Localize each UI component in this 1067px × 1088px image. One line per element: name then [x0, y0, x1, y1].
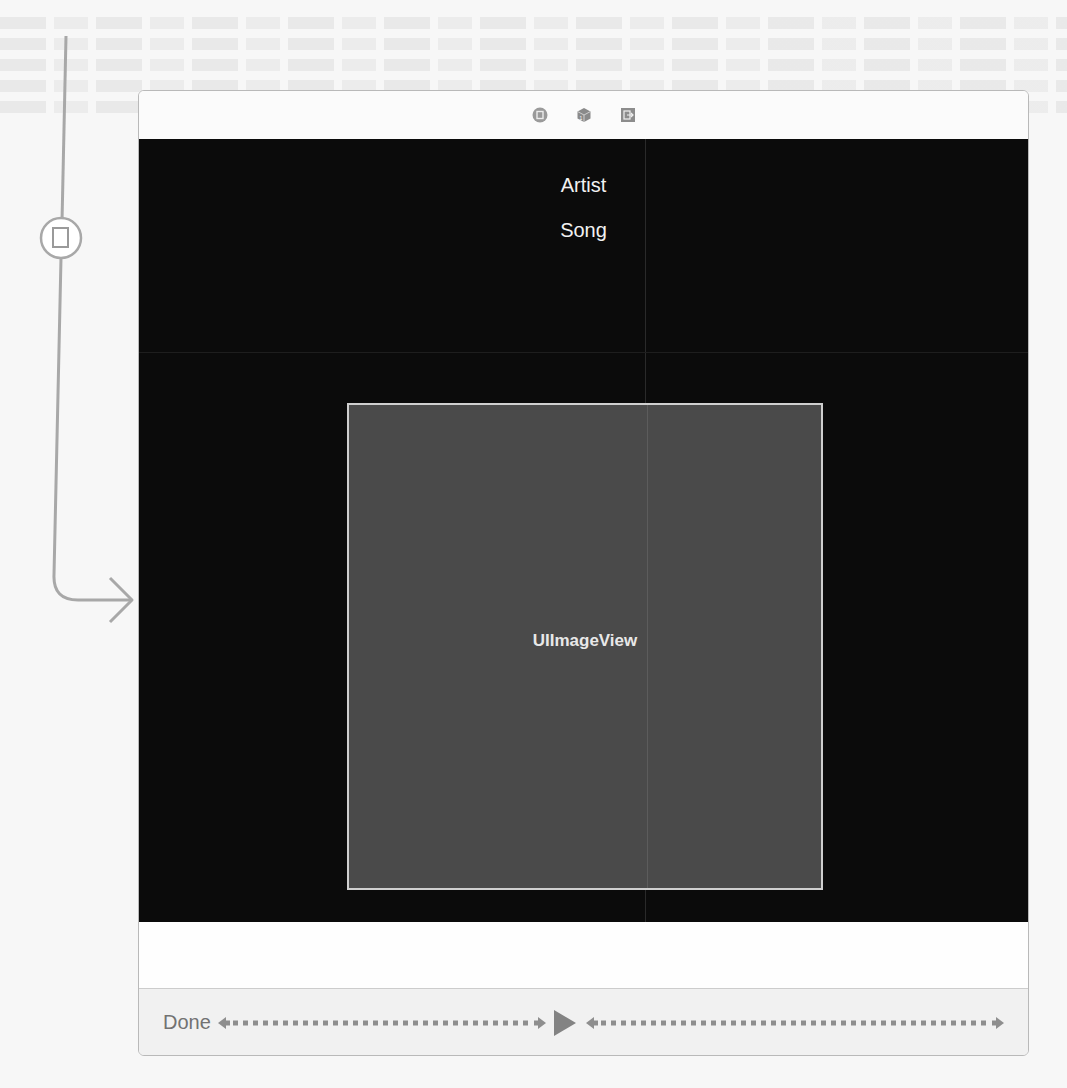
flexible-space-arrows-icon — [585, 1016, 1005, 1030]
flexible-space-left[interactable] — [217, 1016, 547, 1030]
flexible-space-right[interactable] — [585, 1016, 1005, 1030]
scene-dock: 1 — [139, 91, 1028, 140]
view-controller-icon[interactable] — [532, 107, 548, 123]
album-image-view[interactable]: UIImageView — [347, 403, 823, 890]
play-button[interactable] — [553, 1009, 577, 1037]
song-label[interactable]: Song — [139, 219, 1028, 242]
flexible-space-arrows-icon — [217, 1016, 547, 1030]
background-text-line: ████████████████████████████████████████… — [0, 38, 1067, 50]
empty-area — [139, 922, 1028, 988]
svg-text:1: 1 — [579, 115, 582, 121]
background-text-line: ████████████████████████████████████████… — [0, 59, 1067, 71]
done-button[interactable]: Done — [163, 1011, 211, 1034]
toolbar: Done — [139, 988, 1028, 1056]
segue-modal-icon[interactable] — [41, 218, 81, 258]
play-icon — [553, 1009, 577, 1037]
first-responder-icon[interactable]: 1 — [576, 107, 592, 123]
artist-label[interactable]: Artist — [139, 174, 1028, 197]
exit-icon[interactable] — [620, 107, 636, 123]
background-text-line: ████████████████████████████████████████… — [0, 17, 1067, 29]
image-view-placeholder-label: UIImageView — [349, 631, 821, 651]
storyboard-scene[interactable]: 1 Artist Song UIImageView Done — [138, 90, 1029, 1056]
main-view[interactable]: Artist Song UIImageView — [139, 139, 1028, 922]
segue-connector[interactable] — [0, 0, 140, 640]
horizontal-guide — [139, 352, 1028, 353]
